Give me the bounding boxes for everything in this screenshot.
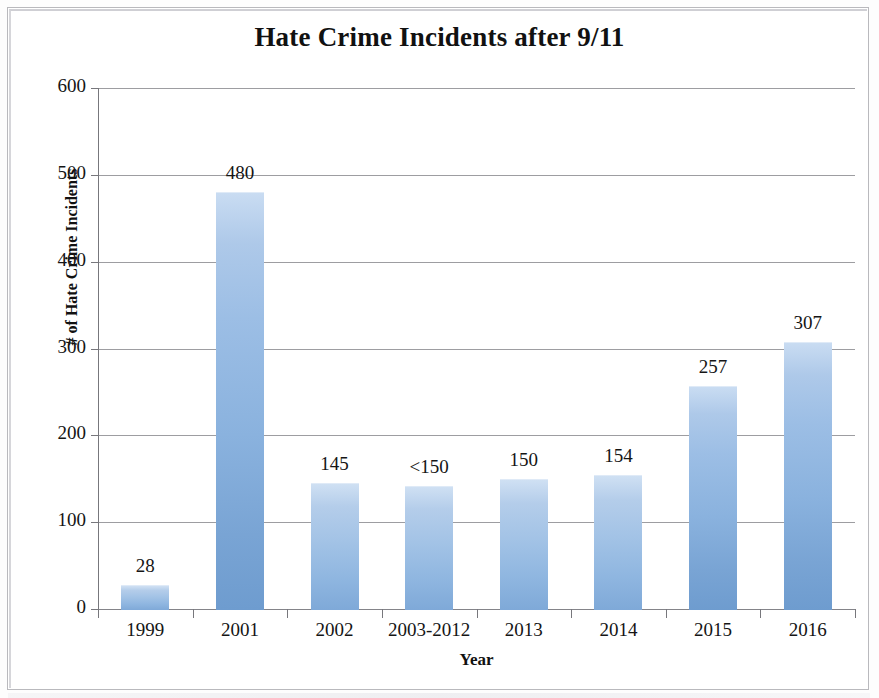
chart-page: Hate Crime Incidents after 9/11 # of Hat… bbox=[0, 0, 879, 698]
y-axis-tick-200 bbox=[91, 435, 99, 436]
chart-title: Hate Crime Incidents after 9/11 bbox=[0, 22, 879, 53]
x-axis-label-2016: 2016 bbox=[748, 619, 868, 641]
y-axis-label-100: 100 bbox=[26, 509, 86, 531]
gridline-400 bbox=[98, 262, 855, 263]
y-axis-label-600: 600 bbox=[26, 75, 86, 97]
gridline-300 bbox=[98, 349, 855, 350]
gridline-200 bbox=[98, 435, 855, 436]
y-axis-tick-500 bbox=[91, 175, 99, 176]
bar-2002 bbox=[311, 483, 359, 610]
bar-2013 bbox=[500, 479, 548, 610]
bar-1999 bbox=[121, 585, 169, 610]
x-axis-tick-5 bbox=[571, 609, 572, 618]
y-axis-label-500: 500 bbox=[26, 162, 86, 184]
bar-2016 bbox=[784, 342, 832, 610]
bar-2003-2012 bbox=[405, 486, 453, 610]
bar-value-label-2016: 307 bbox=[748, 312, 868, 334]
x-axis-tick-7 bbox=[760, 609, 761, 618]
x-axis-tick-4 bbox=[477, 609, 478, 618]
x-axis-tick-1 bbox=[193, 609, 194, 618]
bar-value-label-2014: 154 bbox=[558, 445, 678, 467]
y-axis-label-200: 200 bbox=[26, 422, 86, 444]
x-axis-tick-2 bbox=[287, 609, 288, 618]
y-axis-tick-100 bbox=[91, 522, 99, 523]
y-axis-tick-400 bbox=[91, 262, 99, 263]
bar-value-label-2015: 257 bbox=[653, 356, 773, 378]
x-axis-title: Year bbox=[98, 650, 855, 670]
gridline-600 bbox=[98, 88, 855, 89]
x-axis-tick-end bbox=[855, 609, 856, 618]
y-axis-tick-600 bbox=[91, 88, 99, 89]
bar-value-label-1999: 28 bbox=[85, 555, 205, 577]
gridline-100 bbox=[98, 522, 855, 523]
bar-2015 bbox=[689, 386, 737, 610]
x-axis-tick-0 bbox=[98, 609, 99, 618]
bar-2014 bbox=[594, 475, 642, 610]
x-axis-tick-3 bbox=[382, 609, 383, 618]
x-axis-tick-6 bbox=[666, 609, 667, 618]
y-axis-label-0: 0 bbox=[26, 596, 86, 618]
bar-value-label-2001: 480 bbox=[180, 162, 300, 184]
y-axis-label-400: 400 bbox=[26, 249, 86, 271]
y-axis-tick-300 bbox=[91, 349, 99, 350]
bar-2001 bbox=[216, 192, 264, 610]
scan-bottom-edge bbox=[8, 693, 870, 698]
y-axis-label-300: 300 bbox=[26, 336, 86, 358]
